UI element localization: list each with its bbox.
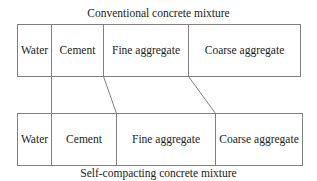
connector-fine-coarse [189,77,216,114]
self-compacting-cement-label: Cement [52,132,116,146]
conventional-cement-label: Cement [52,43,103,57]
connector-cement-fine [104,77,117,114]
conventional-water-label: Water [18,43,51,57]
self-compacting-fine-aggregate-label: Fine aggregate [117,132,215,146]
self-compacting-water-label: Water [18,132,51,146]
diagram-lines [0,0,317,181]
conventional-coarse-aggregate-label: Coarse aggregate [189,43,300,57]
self-compacting-coarse-aggregate-label: Coarse aggregate [216,132,302,146]
conventional-fine-aggregate-label: Fine aggregate [104,43,188,57]
self-compacting-mixture-title: Self-compacting concrete mixture [0,166,317,180]
